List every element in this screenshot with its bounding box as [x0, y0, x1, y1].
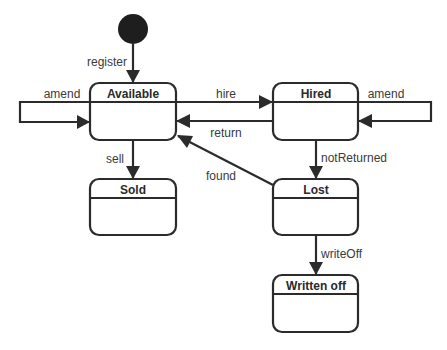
transition-label-found: found [206, 169, 236, 183]
transition-label-amend-available: amend [44, 87, 81, 101]
initial-state-node[interactable] [118, 14, 148, 44]
transition-label-notReturned: notReturned [321, 151, 387, 165]
state-available[interactable]: Available [90, 83, 176, 140]
arrowhead-register-icon [126, 70, 140, 83]
arrowhead-amend-available-icon [77, 115, 90, 129]
state-title-hired: Hired [301, 87, 332, 101]
transition-label-amend-hired: amend [368, 87, 405, 101]
arrowhead-notReturned-icon [309, 166, 323, 179]
transition-label-sell: sell [106, 152, 124, 166]
arrowhead-writeOff-icon [309, 262, 323, 275]
state-title-available: Available [107, 87, 160, 101]
state-title-lost: Lost [303, 183, 328, 197]
state-title-written-off: Written off [286, 279, 347, 293]
state-title-sold: Sold [120, 183, 146, 197]
state-hired[interactable]: Hired [273, 83, 358, 140]
transition-label-hire: hire [216, 87, 236, 101]
state-sold[interactable]: Sold [90, 179, 176, 235]
transition-label-register: register [87, 55, 127, 69]
arrowhead-hire-icon [259, 95, 273, 109]
transition-label-return: return [210, 126, 241, 140]
arrowhead-sell-icon [126, 166, 140, 179]
state-lost[interactable]: Lost [273, 179, 358, 235]
arrowhead-return-icon [176, 114, 190, 128]
arrowhead-amend-hired-icon [358, 114, 372, 128]
state-written-off[interactable]: Written off [273, 275, 358, 332]
state-diagram: Available Hired Sold Lost Written off re… [0, 0, 447, 350]
transition-label-writeOff: writeOff [320, 247, 363, 261]
